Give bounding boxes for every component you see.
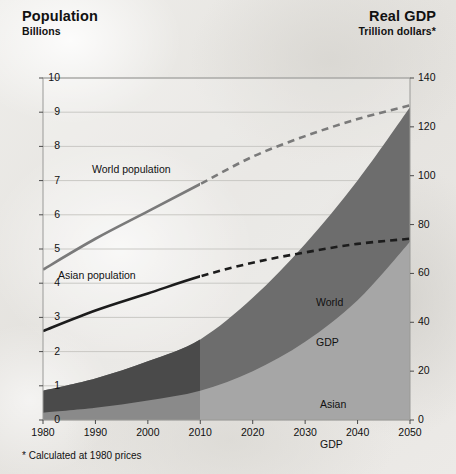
asian-population-label: Asian population bbox=[58, 269, 136, 282]
left-tick-7: 7 bbox=[54, 174, 60, 186]
asian-gdp-label: Asian GDP bbox=[320, 372, 346, 474]
world-gdp-label: World GDP bbox=[316, 270, 343, 375]
left-tick-1: 1 bbox=[54, 379, 60, 391]
chart-plot-area: 012345678910 020406080100120140 19801990… bbox=[0, 0, 456, 474]
left-tick-2: 2 bbox=[54, 345, 60, 357]
x-tick-2000: 2000 bbox=[125, 426, 171, 438]
right-tick-20: 20 bbox=[418, 364, 430, 376]
right-tick-40: 40 bbox=[418, 315, 430, 327]
x-tick-2010: 2010 bbox=[177, 426, 223, 438]
left-tick-8: 8 bbox=[54, 139, 60, 151]
right-tick-60: 60 bbox=[418, 266, 430, 278]
x-tick-2050: 2050 bbox=[387, 426, 433, 438]
chart-svg bbox=[0, 0, 456, 474]
x-tick-1980: 1980 bbox=[20, 426, 66, 438]
left-tick-9: 9 bbox=[54, 105, 60, 117]
left-tick-5: 5 bbox=[54, 242, 60, 254]
right-tick-80: 80 bbox=[418, 218, 430, 230]
left-tick-6: 6 bbox=[54, 208, 60, 220]
world-population-label: World population bbox=[92, 163, 171, 176]
left-tick-3: 3 bbox=[54, 310, 60, 322]
left-tick-10: 10 bbox=[48, 71, 60, 83]
left-tick-0: 0 bbox=[54, 413, 60, 425]
x-tick-2020: 2020 bbox=[230, 426, 276, 438]
right-tick-100: 100 bbox=[418, 169, 436, 181]
x-tick-1990: 1990 bbox=[72, 426, 118, 438]
right-tick-0: 0 bbox=[418, 413, 424, 425]
footnote: * Calculated at 1980 prices bbox=[22, 450, 142, 461]
right-tick-120: 120 bbox=[418, 120, 436, 132]
right-tick-140: 140 bbox=[418, 71, 436, 83]
